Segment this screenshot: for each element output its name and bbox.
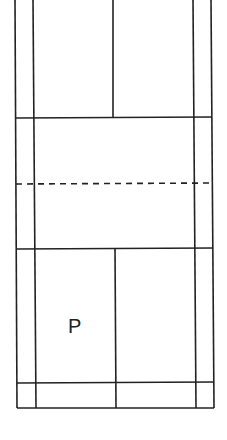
court-lines bbox=[0, 0, 227, 440]
net-line bbox=[16, 183, 213, 184]
center-line-bottom bbox=[115, 249, 116, 408]
outer-sideline-right bbox=[211, 0, 214, 408]
short-service-line-top bbox=[16, 117, 212, 118]
singles-sideline-right bbox=[193, 0, 196, 408]
outer-sideline-left bbox=[15, 0, 17, 408]
singles-sideline-left bbox=[33, 0, 36, 408]
player-label: P bbox=[68, 316, 81, 336]
long-service-line-bottom bbox=[17, 382, 214, 383]
short-service-line-bottom bbox=[16, 248, 213, 249]
